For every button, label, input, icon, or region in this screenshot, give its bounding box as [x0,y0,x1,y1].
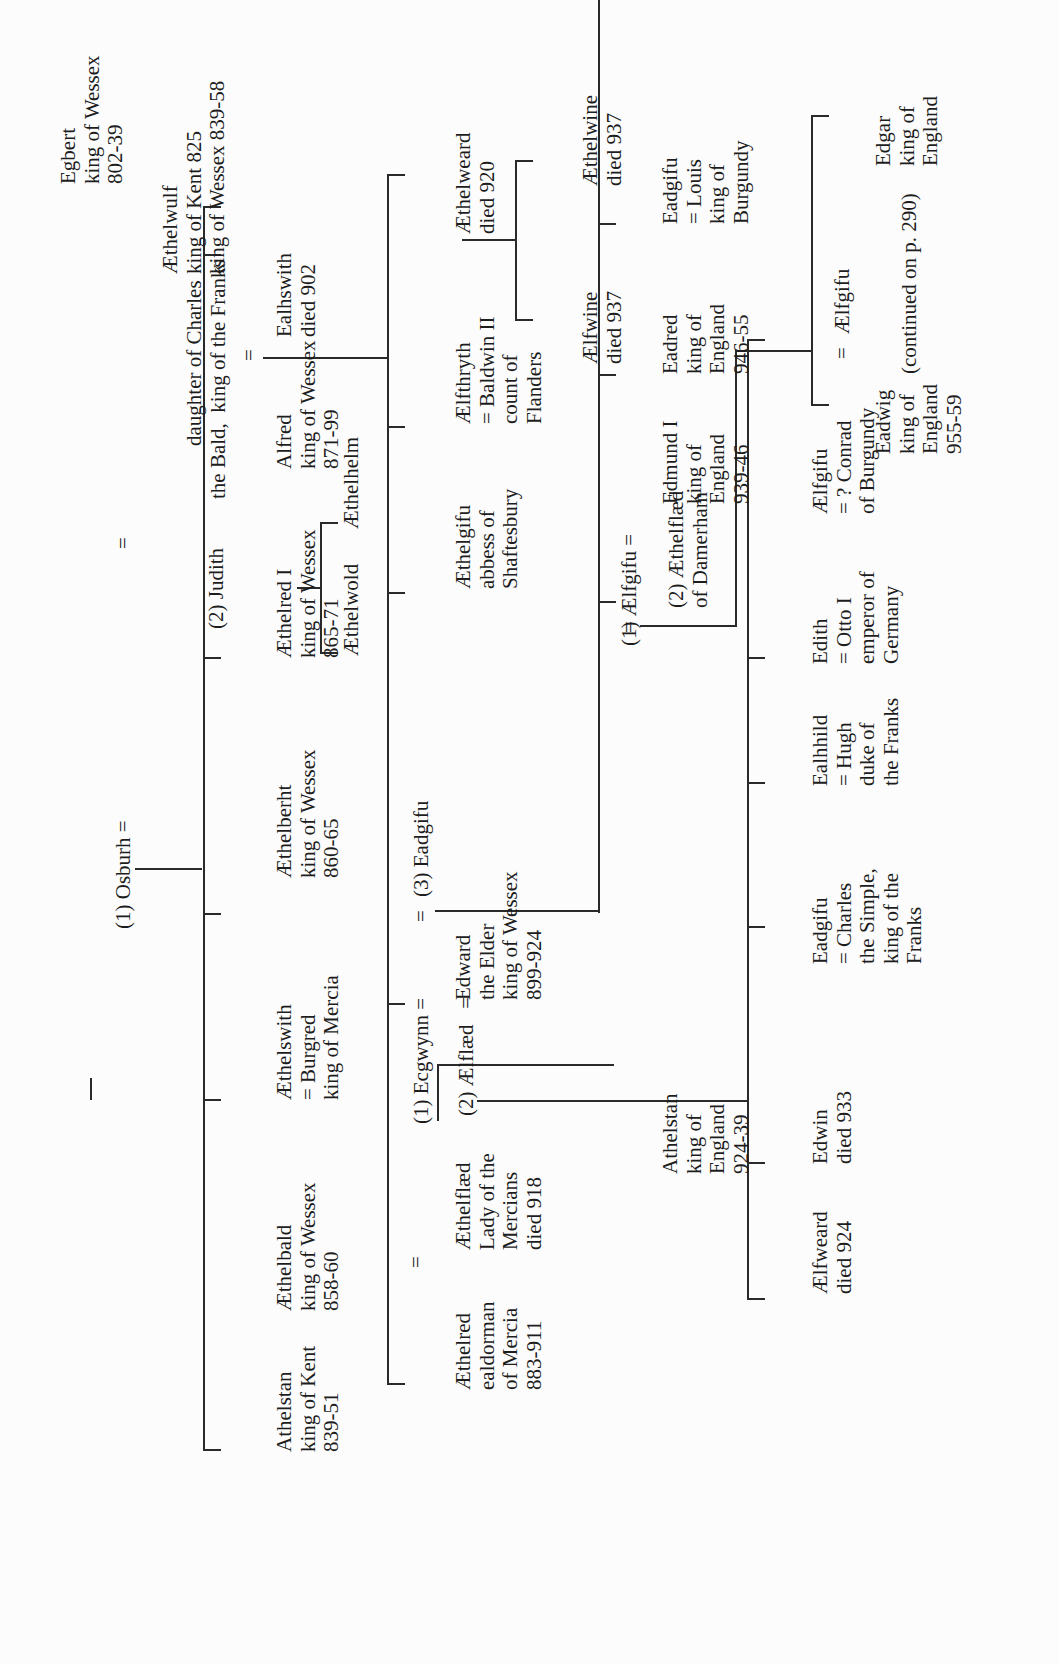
page: Egbertking of Wessex802-39 (1) Osburh = … [0,0,1058,1664]
person-aethelred-mercia: Æthelredealdormanof Mercia883-911 [405,1301,593,1390]
sibling-bus [811,116,813,406]
person-eadred: Eadredking ofEngland946-55 [612,304,800,374]
person-aethelberht: Æthelberhtking of Wessex860-65 [226,749,391,878]
descent-line [462,239,515,241]
marriage-sign: = [410,910,433,922]
genealogy-diagram: Egbertking of Wessex802-39 (1) Osburh = … [0,0,1058,1664]
descent-line [135,868,202,870]
person-ealhswith: Ealhswithdied 902 [226,253,367,337]
person-osburh: (1) Osburh = [112,820,136,929]
person-aethelwulf: Æthelwulfking of Kent 825king of Wessex … [112,81,277,274]
marriage-sign: = [618,621,641,633]
continuation-note: (continued on p. 290) [898,193,922,374]
person-aethelflaed-damerham: (2) Æthelflædof Damerham [618,491,759,608]
person-aethelbald: Æthelbaldking of Wessex858-60 [226,1182,391,1311]
marriage-sign: = [238,349,261,361]
person-ecgwynn: (1) Ecgwynn = [410,998,434,1124]
person-athelstan: Athelstanking of Kent839-51 [226,1346,391,1452]
person-edith: Edith= Otto Iemperor ofGermany [762,571,950,664]
marriage-sign: = [831,347,854,359]
person-aethelhelm: Æthelhelm [340,437,364,529]
person-aethelred-i: Æthelred Iking of Wessex865-71 [226,529,391,658]
person-ealhhild: Ealhhild= Hughduke ofthe Franks [762,698,950,786]
person-aethelweard: Æthelwearddied 920 [405,133,546,234]
person-aethelswith: Æthelswith= Burgredking of Mercia [226,975,391,1100]
person-aethelwold: Æthelwold [340,564,364,656]
person-aelfgifu-eadwig: Ælfgifu [831,269,855,334]
person-aelfweard: Ælfwearddied 924 [762,1211,903,1294]
person-edgar: Edgarking ofEngland [825,96,990,166]
person-aethelgifu: Æthelgifuabbess ofShaftesbury [405,489,570,589]
marriage-sign: = [112,537,135,549]
descent-line [640,625,735,627]
person-eadgifu-3: (3) Eadgifu [410,801,434,897]
person-eadgifu-charles: Eadgifu= Charlesthe Simple,king of theFr… [762,868,974,964]
person-eadwig: Eadwigking ofEngland955-59 [825,384,1013,454]
descent-line [90,1078,92,1100]
person-eadgifu-louis: Eadgifu= Louisking ofBurgundy [612,140,800,224]
person-aelfflaed: (2) Ælflæd = [455,997,479,1116]
person-aethelflaed: ÆthelflædLady of theMerciansdied 918 [405,1153,593,1250]
person-edwin: Edwindied 933 [762,1091,903,1164]
marriage-sign: = [405,1256,428,1268]
